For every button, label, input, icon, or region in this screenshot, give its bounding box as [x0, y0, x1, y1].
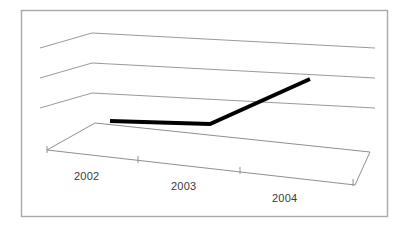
x-axis-label-2002: 2002	[74, 170, 99, 182]
gridline-bottom	[40, 93, 375, 108]
gridline-middle	[40, 63, 375, 78]
chart-canvas	[0, 0, 410, 227]
chart-container: 2002 2003 2004	[0, 0, 410, 227]
series-line-1	[110, 79, 310, 124]
chart-frame-border	[22, 11, 388, 217]
gridline-group	[40, 33, 375, 108]
x-axis-label-2004: 2004	[272, 192, 297, 204]
gridline-top	[40, 33, 375, 48]
x-axis-label-2003: 2003	[171, 180, 196, 192]
